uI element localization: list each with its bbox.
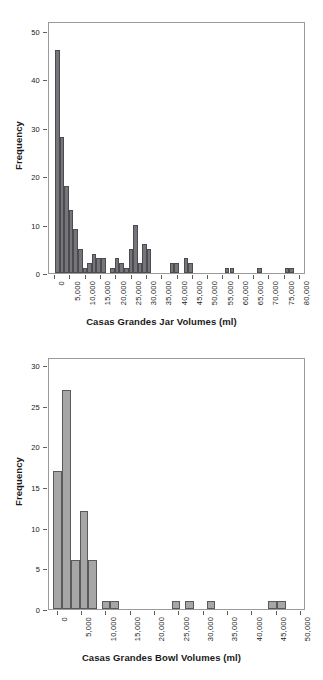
x-axis-tick bbox=[81, 611, 82, 615]
y-axis-tick bbox=[43, 80, 47, 81]
histogram-bar bbox=[268, 601, 277, 609]
y-axis-tick-label: 40 bbox=[14, 76, 40, 85]
histogram-bar bbox=[53, 471, 62, 609]
y-axis-tick bbox=[43, 274, 47, 275]
y-axis-tick bbox=[43, 32, 47, 33]
y-axis-title-jar: Frequency bbox=[13, 106, 24, 186]
figure-bowl-volumes: 05101520253005,00010,00015,00020,00025,0… bbox=[0, 340, 323, 680]
y-axis-tick-label: 50 bbox=[14, 27, 40, 36]
y-axis-tick bbox=[43, 529, 47, 530]
x-axis-tick bbox=[57, 611, 58, 615]
x-axis-tick-label: 45,000 bbox=[279, 617, 288, 657]
plot-area-jar-volumes bbox=[48, 22, 305, 274]
histogram-bar bbox=[80, 511, 89, 609]
y-axis-tick bbox=[43, 129, 47, 130]
x-axis-tick bbox=[154, 611, 155, 615]
x-axis-tick-label: 25,000 bbox=[182, 617, 191, 657]
y-axis-tick-label: 0 bbox=[14, 270, 40, 279]
x-axis-tick-label: 0 bbox=[57, 281, 66, 321]
histogram-bar bbox=[289, 268, 294, 273]
x-axis-tick bbox=[54, 275, 55, 279]
y-axis-tick bbox=[43, 177, 47, 178]
x-axis-tick bbox=[207, 275, 208, 279]
x-axis-tick bbox=[115, 275, 116, 279]
x-axis-tick-label: 40,000 bbox=[255, 617, 264, 657]
x-axis-tick-label: 60,000 bbox=[241, 281, 250, 321]
x-axis-tick-label: 15,000 bbox=[133, 617, 142, 657]
histogram-bar bbox=[230, 268, 235, 273]
x-axis-tick bbox=[100, 275, 101, 279]
y-axis-tick bbox=[43, 407, 47, 408]
histogram-bar bbox=[147, 249, 152, 273]
x-axis-tick-label: 10,000 bbox=[109, 617, 118, 657]
bars-container-bowl bbox=[49, 359, 304, 609]
x-axis-tick-label: 5,000 bbox=[84, 617, 93, 657]
histogram-bar bbox=[174, 263, 179, 273]
x-axis-tick-label: 15,000 bbox=[103, 281, 112, 321]
x-axis-tick-label: 30,000 bbox=[206, 617, 215, 657]
x-axis-title-bowl: Casas Grandes Bowl Volumes (ml) bbox=[0, 652, 323, 663]
y-axis-tick bbox=[43, 447, 47, 448]
y-axis-tick bbox=[43, 226, 47, 227]
x-axis-tick-label: 45,000 bbox=[195, 281, 204, 321]
histogram-bar bbox=[185, 601, 194, 609]
x-axis-tick bbox=[131, 275, 132, 279]
x-axis-tick bbox=[227, 611, 228, 615]
x-axis-tick bbox=[276, 611, 277, 615]
histogram-bar bbox=[101, 258, 106, 273]
x-axis-tick bbox=[105, 611, 106, 615]
y-axis-title-bowl: Frequency bbox=[13, 442, 24, 522]
x-axis-tick bbox=[146, 275, 147, 279]
figure-jar-volumes: 0102030405005,00010,00015,00020,00025,00… bbox=[0, 0, 323, 340]
x-axis-tick bbox=[85, 275, 86, 279]
y-axis-tick bbox=[43, 569, 47, 570]
histogram-bar bbox=[71, 560, 80, 609]
x-axis-tick-label: 0 bbox=[60, 617, 69, 657]
x-axis-tick-label: 75,000 bbox=[287, 281, 296, 321]
x-axis-tick bbox=[161, 275, 162, 279]
x-axis-tick bbox=[238, 275, 239, 279]
histogram-bar bbox=[110, 601, 119, 609]
plot-area-bowl-volumes bbox=[48, 358, 305, 610]
y-axis-tick-label: 10 bbox=[14, 524, 40, 533]
y-axis-tick-label: 0 bbox=[14, 606, 40, 615]
x-axis-tick bbox=[130, 611, 131, 615]
x-axis-tick bbox=[300, 611, 301, 615]
x-axis-tick bbox=[251, 611, 252, 615]
x-axis-tick-label: 70,000 bbox=[271, 281, 280, 321]
y-axis-tick-label: 5 bbox=[14, 565, 40, 574]
y-axis-tick-label: 25 bbox=[14, 402, 40, 411]
x-axis-tick-label: 20,000 bbox=[157, 617, 166, 657]
histogram-bar bbox=[188, 263, 193, 273]
histogram-bar bbox=[102, 601, 111, 609]
x-axis-tick bbox=[177, 275, 178, 279]
bars-container-jar bbox=[49, 23, 304, 273]
x-axis-tick-label: 5,000 bbox=[73, 281, 82, 321]
x-axis-tick bbox=[253, 275, 254, 279]
y-axis-tick bbox=[43, 366, 47, 367]
histogram-bar bbox=[277, 601, 286, 609]
x-axis-tick-label: 50,000 bbox=[303, 617, 312, 657]
y-axis-tick bbox=[43, 488, 47, 489]
x-axis-tick-label: 30,000 bbox=[149, 281, 158, 321]
histogram-bar bbox=[257, 268, 262, 273]
x-axis-tick-label: 25,000 bbox=[134, 281, 143, 321]
x-axis-tick bbox=[284, 275, 285, 279]
y-axis-tick-label: 30 bbox=[14, 362, 40, 371]
x-axis-tick-label: 35,000 bbox=[164, 281, 173, 321]
y-axis-tick bbox=[43, 610, 47, 611]
histogram-bar bbox=[62, 390, 71, 609]
histogram-bar bbox=[207, 601, 216, 609]
x-axis-tick-label: 50,000 bbox=[210, 281, 219, 321]
x-axis-tick-label: 20,000 bbox=[119, 281, 128, 321]
x-axis-tick-label: 55,000 bbox=[226, 281, 235, 321]
histogram-bar bbox=[88, 560, 97, 609]
x-axis-tick-label: 80,000 bbox=[302, 281, 311, 321]
x-axis-tick-label: 35,000 bbox=[230, 617, 239, 657]
histogram-bar bbox=[172, 601, 181, 609]
x-axis-tick bbox=[192, 275, 193, 279]
x-axis-tick bbox=[268, 275, 269, 279]
x-axis-title-jar: Casas Grandes Jar Volumes (ml) bbox=[0, 316, 323, 327]
x-axis-tick bbox=[203, 611, 204, 615]
x-axis-tick bbox=[222, 275, 223, 279]
